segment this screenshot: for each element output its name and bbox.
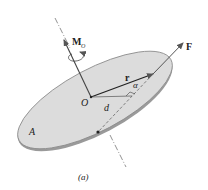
figure-caption: (a) bbox=[78, 172, 89, 182]
origin-label: O bbox=[81, 97, 88, 108]
moment-diagram: M O F r O d α A (a) bbox=[0, 0, 208, 190]
moment-axis-lower bbox=[110, 135, 126, 167]
force-label: F bbox=[186, 41, 192, 52]
plane-A bbox=[5, 32, 186, 167]
position-label: r bbox=[125, 72, 130, 83]
origin-point bbox=[90, 96, 92, 98]
plane-label: A bbox=[28, 126, 36, 137]
line-of-action-point bbox=[96, 130, 99, 133]
moment-axis-upper bbox=[55, 18, 70, 48]
angle-label: α bbox=[133, 80, 138, 90]
moment-subscript: O bbox=[81, 43, 86, 49]
